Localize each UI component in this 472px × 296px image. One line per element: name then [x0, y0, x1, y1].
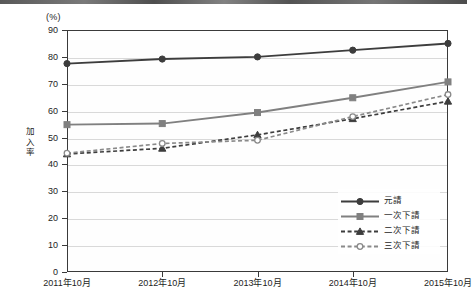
filled-square-marker: [340, 208, 380, 219]
data-point-marker: [159, 56, 165, 62]
data-point-marker: [445, 40, 451, 46]
filled-triangle-marker: [340, 223, 380, 234]
x-tick-label: 2014年10月: [329, 276, 377, 289]
data-point-marker: [350, 47, 356, 53]
y-tick-label: 20: [34, 213, 58, 223]
data-point-marker: [350, 95, 356, 101]
legend-item-3[interactable]: 二次下請: [340, 221, 438, 236]
data-point-marker: [64, 61, 70, 67]
y-tick-label: 10: [34, 240, 58, 250]
y-tick-label: 60: [34, 106, 58, 116]
open-circle-marker: [340, 238, 380, 249]
legend-item-4[interactable]: 三次下請: [340, 236, 438, 251]
legend-item-label: 一次下請: [380, 208, 420, 220]
y-tick-label: 40: [34, 159, 58, 169]
legend-item-1[interactable]: 元請: [340, 191, 438, 206]
data-point-marker: [64, 150, 70, 156]
x-tick-label: 2015年10月: [424, 276, 472, 289]
chart-legend: 元請一次下請二次下請三次下請: [338, 189, 440, 254]
data-point-marker: [159, 141, 165, 147]
y-axis-unit-label: (%): [46, 12, 61, 22]
x-tick-label: 2013年10月: [233, 276, 281, 289]
data-point-marker: [444, 98, 451, 104]
x-tick-mark: [258, 272, 259, 277]
data-point-marker: [64, 122, 70, 128]
data-point-marker: [350, 114, 356, 120]
y-tick-mark: [62, 272, 67, 273]
data-point-marker: [255, 137, 261, 143]
data-point-marker: [445, 92, 451, 98]
legend-item-label: 二次下請: [380, 223, 420, 235]
data-point-marker: [159, 121, 165, 127]
y-tick-label: 30: [34, 186, 58, 196]
data-point-marker: [255, 110, 261, 116]
series-1: [64, 40, 451, 66]
legend-item-label: 元請: [380, 193, 402, 205]
legend-item-label: 三次下請: [380, 238, 420, 250]
x-tick-label: 2012年10月: [138, 276, 186, 289]
x-tick-label: 2011年10月: [43, 276, 90, 289]
series-2: [64, 79, 451, 128]
y-axis-title-char: 率: [24, 147, 36, 158]
y-tick-label: 50: [34, 133, 58, 143]
y-tick-label: 90: [34, 25, 58, 35]
x-tick-mark: [162, 272, 163, 277]
data-point-marker: [254, 54, 260, 60]
legend-item-2[interactable]: 一次下請: [340, 206, 438, 221]
series-line: [67, 82, 448, 125]
y-tick-label: 70: [34, 79, 58, 89]
y-tick-label: 80: [34, 52, 58, 62]
x-tick-mark: [353, 272, 354, 277]
data-point-marker: [445, 79, 451, 85]
filled-circle-marker: [340, 193, 380, 204]
